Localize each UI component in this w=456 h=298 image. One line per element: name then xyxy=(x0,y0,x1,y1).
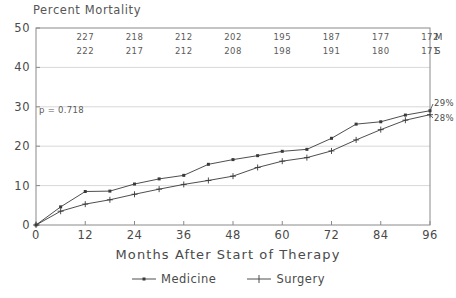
series-line-surgery xyxy=(36,115,430,225)
x-tick-label: 24 xyxy=(120,228,150,242)
data-point-surgery xyxy=(304,155,310,161)
data-point-surgery xyxy=(255,164,261,170)
data-point-surgery xyxy=(230,173,236,179)
at-risk-count: 195 xyxy=(267,32,297,42)
x-tick-label: 96 xyxy=(415,228,445,242)
x-tick-label: 0 xyxy=(21,228,51,242)
x-axis-title: Months After Start of Therapy xyxy=(0,247,456,262)
data-point-surgery xyxy=(378,127,384,133)
at-risk-row-tag: S xyxy=(435,46,441,56)
data-point-medicine xyxy=(232,158,235,161)
y-tick-label: 30 xyxy=(0,100,30,114)
at-risk-count: 217 xyxy=(120,46,150,56)
at-risk-count: 180 xyxy=(366,46,396,56)
data-point-medicine xyxy=(305,148,308,151)
data-point-medicine xyxy=(281,150,284,153)
legend-label: Surgery xyxy=(276,272,325,286)
data-point-medicine xyxy=(133,183,136,186)
data-point-medicine xyxy=(182,174,185,177)
data-point-medicine xyxy=(404,114,407,117)
data-point-surgery xyxy=(181,181,187,187)
data-point-surgery xyxy=(402,117,408,123)
data-point-medicine xyxy=(84,190,87,193)
data-point-medicine xyxy=(379,120,382,123)
at-risk-row-tag: M xyxy=(435,32,443,42)
at-risk-count: 187 xyxy=(317,32,347,42)
data-point-surgery xyxy=(156,186,162,192)
square-marker-icon xyxy=(131,273,157,285)
at-risk-count: 212 xyxy=(169,32,199,42)
at-risk-count: 202 xyxy=(218,32,248,42)
end-label-medicine: 29% xyxy=(434,98,454,108)
data-point-surgery xyxy=(279,158,285,164)
y-tick-marks xyxy=(36,28,40,225)
data-point-medicine xyxy=(108,190,111,193)
y-tick-label: 50 xyxy=(0,21,30,35)
chart-legend: MedicineSurgery xyxy=(0,272,456,286)
plus-marker-icon xyxy=(246,273,272,285)
x-tick-label: 72 xyxy=(317,228,347,242)
legend-label: Medicine xyxy=(161,272,216,286)
y-tick-label: 40 xyxy=(0,60,30,74)
series-markers-group xyxy=(33,109,433,228)
x-tick-marks xyxy=(36,221,430,225)
data-point-surgery xyxy=(58,208,64,214)
mortality-chart: Percent Mortality Months After Start of … xyxy=(0,0,456,298)
x-tick-label: 12 xyxy=(70,228,100,242)
at-risk-count: 198 xyxy=(267,46,297,56)
at-risk-count: 191 xyxy=(317,46,347,56)
data-point-surgery xyxy=(329,148,335,154)
data-point-medicine xyxy=(256,154,259,157)
data-point-medicine xyxy=(59,205,62,208)
y-tick-label: 10 xyxy=(0,179,30,193)
at-risk-count: 227 xyxy=(70,32,100,42)
x-tick-label: 48 xyxy=(218,228,248,242)
y-axis-title: Percent Mortality xyxy=(33,3,141,17)
data-point-medicine xyxy=(330,137,333,140)
at-risk-count: 222 xyxy=(70,46,100,56)
legend-item-medicine[interactable]: Medicine xyxy=(131,272,216,286)
at-risk-count: 212 xyxy=(169,46,199,56)
data-point-medicine xyxy=(207,163,210,166)
data-point-medicine xyxy=(355,123,358,126)
series-line-medicine xyxy=(36,111,430,225)
x-tick-label: 36 xyxy=(169,228,199,242)
y-tick-label: 20 xyxy=(0,139,30,153)
data-point-surgery xyxy=(205,177,211,183)
x-tick-label: 84 xyxy=(366,228,396,242)
data-point-surgery xyxy=(107,197,113,203)
x-tick-label: 60 xyxy=(267,228,297,242)
end-label-surgery: 28% xyxy=(434,113,454,123)
origin-marker xyxy=(35,224,38,227)
gridlines-group xyxy=(36,67,430,185)
at-risk-count: 208 xyxy=(218,46,248,56)
data-point-surgery xyxy=(353,137,359,143)
plot-border xyxy=(36,28,430,225)
data-point-surgery xyxy=(132,191,138,197)
plot-frame xyxy=(36,28,430,225)
pvalue-annotation: p = 0.718 xyxy=(39,105,84,115)
at-risk-count: 218 xyxy=(120,32,150,42)
data-point-surgery xyxy=(82,201,88,207)
legend-item-surgery[interactable]: Surgery xyxy=(246,272,325,286)
series-lines-group xyxy=(36,111,430,225)
data-point-medicine xyxy=(158,177,161,180)
at-risk-count: 177 xyxy=(366,32,396,42)
